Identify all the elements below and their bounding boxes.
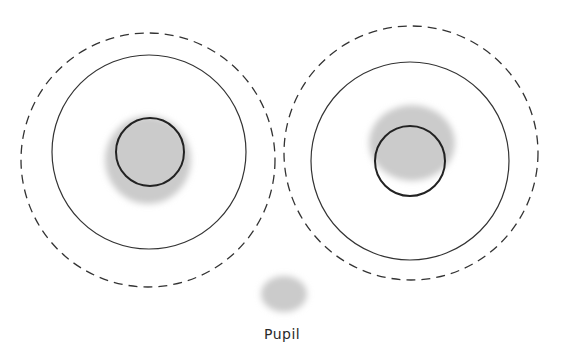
pupil-sample xyxy=(261,276,307,312)
eye-diagram xyxy=(0,0,562,344)
diagram-canvas: Pupil xyxy=(0,0,562,344)
left-eye xyxy=(21,33,275,287)
right-eye xyxy=(284,26,538,280)
right-shaded-region xyxy=(369,105,455,181)
pupil-label: Pupil xyxy=(264,326,300,342)
